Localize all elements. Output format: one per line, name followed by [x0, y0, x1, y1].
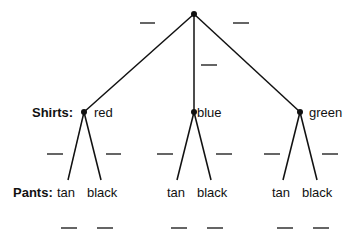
pants-tan-red: tan — [57, 186, 75, 200]
branch-green — [194, 14, 300, 112]
pants-title: Pants: — [13, 186, 53, 200]
root-node — [191, 11, 197, 17]
shirts-title: Shirts: — [32, 106, 73, 120]
node-green — [297, 109, 303, 115]
node-red — [81, 109, 87, 115]
branch-red — [84, 14, 194, 112]
pants-tan-blue: tan — [167, 186, 185, 200]
pants-black-blue: black — [197, 186, 227, 200]
pants-black-red: black — [87, 186, 117, 200]
pants-black-green: black — [302, 186, 332, 200]
shirt-blue: blue — [197, 106, 222, 120]
shirt-green: green — [309, 106, 342, 120]
pants-tan-green: tan — [272, 186, 290, 200]
shirt-red: red — [94, 106, 113, 120]
